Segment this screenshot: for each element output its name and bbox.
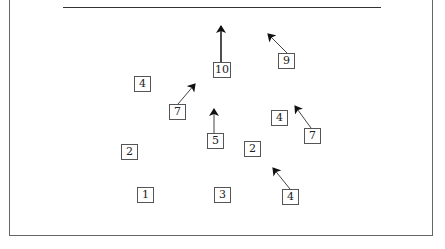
arrow-icon — [178, 84, 195, 104]
node-box-n7a: 7 — [169, 104, 186, 120]
node-box-n7b: 7 — [304, 128, 321, 144]
node-box-n3: 3 — [214, 187, 231, 203]
node-box-n2b: 2 — [244, 141, 261, 157]
arrow-icon — [273, 168, 290, 189]
node-box-n1: 1 — [137, 187, 154, 203]
node-box-n9: 9 — [278, 53, 295, 69]
arrow-icon — [268, 34, 287, 53]
arrows-layer — [0, 0, 445, 249]
node-box-n5: 5 — [207, 133, 224, 149]
node-box-n4c: 4 — [282, 189, 299, 205]
arrow-icon — [295, 106, 311, 128]
node-box-n10: 10 — [213, 62, 231, 78]
node-box-n2a: 2 — [121, 144, 138, 160]
node-box-n4b: 4 — [271, 110, 288, 126]
node-box-n4a: 4 — [134, 76, 151, 92]
